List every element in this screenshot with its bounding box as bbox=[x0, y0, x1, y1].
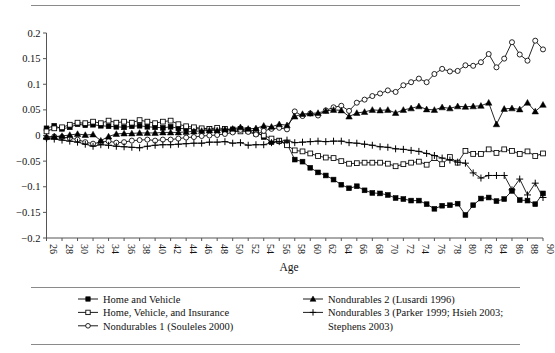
data-point-marker bbox=[485, 172, 492, 179]
data-point-marker bbox=[525, 149, 530, 154]
data-point-marker bbox=[447, 69, 452, 74]
data-point-marker bbox=[346, 139, 353, 146]
data-point-marker bbox=[370, 94, 375, 99]
data-point-marker bbox=[440, 162, 445, 167]
data-point-marker bbox=[354, 184, 359, 189]
data-point-marker bbox=[392, 145, 399, 152]
series-line bbox=[47, 139, 544, 198]
data-point-marker bbox=[424, 80, 429, 85]
data-point-marker bbox=[385, 107, 391, 113]
data-point-marker bbox=[485, 99, 491, 105]
data-point-marker bbox=[145, 119, 150, 124]
data-point-marker bbox=[145, 124, 150, 129]
data-point-marker bbox=[401, 162, 406, 167]
data-point-marker bbox=[75, 120, 80, 125]
data-point-marker bbox=[86, 310, 90, 314]
data-point-marker bbox=[423, 106, 429, 112]
data-point-marker bbox=[517, 52, 522, 57]
data-point-marker bbox=[331, 177, 336, 182]
data-point-marker bbox=[533, 202, 538, 207]
data-point-marker bbox=[252, 141, 259, 148]
x-tick-label: 48 bbox=[219, 244, 230, 254]
data-point-marker bbox=[439, 155, 446, 162]
data-point-marker bbox=[454, 103, 460, 109]
data-point-marker bbox=[183, 140, 190, 147]
y-tick-label: −0.15 bbox=[16, 207, 40, 218]
x-tick-label: 26 bbox=[48, 244, 59, 254]
y-tick-label: 0.1 bbox=[27, 79, 40, 90]
data-series-group bbox=[43, 38, 546, 217]
data-point-marker bbox=[322, 138, 329, 145]
series-line bbox=[47, 124, 544, 215]
x-tick-label: 42 bbox=[172, 244, 183, 254]
data-point-marker bbox=[229, 140, 236, 147]
x-tick-label: 32 bbox=[95, 244, 106, 254]
data-point-marker bbox=[67, 122, 72, 127]
data-point-marker bbox=[291, 139, 298, 146]
data-point-marker bbox=[409, 160, 414, 165]
data-point-marker bbox=[145, 137, 150, 142]
data-point-marker bbox=[494, 151, 499, 156]
data-point-marker bbox=[144, 143, 151, 150]
data-point-marker bbox=[137, 123, 142, 128]
data-point-marker bbox=[184, 135, 189, 140]
legend-label: Stephens 2003) bbox=[328, 321, 394, 333]
data-point-marker bbox=[330, 138, 337, 145]
x-tick-label: 82 bbox=[483, 244, 494, 254]
y-tick-label: −0.05 bbox=[16, 156, 40, 167]
data-point-marker bbox=[83, 121, 88, 126]
data-point-marker bbox=[316, 154, 321, 159]
data-point-marker bbox=[378, 191, 383, 196]
data-point-marker bbox=[167, 141, 174, 148]
data-point-marker bbox=[384, 144, 391, 151]
y-tick-label: 0 bbox=[35, 130, 40, 141]
data-point-marker bbox=[455, 201, 460, 206]
data-point-marker bbox=[159, 141, 166, 148]
data-point-marker bbox=[525, 198, 530, 203]
x-tick-label: 72 bbox=[405, 244, 416, 254]
data-point-marker bbox=[517, 198, 522, 203]
data-point-marker bbox=[540, 47, 545, 52]
data-point-marker bbox=[385, 193, 390, 198]
data-point-marker bbox=[401, 83, 406, 88]
data-point-marker bbox=[479, 152, 484, 157]
data-point-marker bbox=[370, 191, 375, 196]
data-point-marker bbox=[486, 51, 491, 56]
data-point-marker bbox=[137, 118, 142, 123]
legend-label: Nondurables 2 (Lusardi 1996) bbox=[328, 294, 455, 306]
data-point-marker bbox=[517, 152, 522, 157]
data-point-marker bbox=[175, 141, 182, 148]
x-axis-title: Age bbox=[279, 261, 298, 274]
data-point-marker bbox=[463, 213, 468, 218]
data-point-marker bbox=[137, 138, 142, 143]
data-point-marker bbox=[353, 140, 360, 147]
data-point-marker bbox=[424, 202, 429, 207]
data-point-marker bbox=[347, 108, 352, 113]
data-point-marker bbox=[276, 121, 282, 127]
data-point-marker bbox=[315, 138, 322, 145]
data-point-marker bbox=[471, 63, 476, 68]
data-point-marker bbox=[362, 97, 367, 102]
data-point-marker bbox=[471, 152, 476, 157]
x-tick-label: 28 bbox=[64, 244, 75, 254]
x-tick-label: 38 bbox=[141, 244, 152, 254]
x-tick-label: 44 bbox=[188, 244, 199, 254]
legend-entry: Stephens 2003) bbox=[328, 321, 394, 333]
series-5 bbox=[43, 135, 546, 201]
data-point-marker bbox=[392, 110, 398, 116]
data-point-marker bbox=[308, 165, 313, 170]
data-point-marker bbox=[493, 172, 500, 179]
data-point-marker bbox=[215, 132, 220, 137]
data-point-marker bbox=[168, 124, 173, 129]
data-point-marker bbox=[261, 128, 266, 133]
data-point-marker bbox=[308, 151, 313, 156]
data-point-marker bbox=[370, 160, 375, 165]
data-point-marker bbox=[190, 140, 197, 147]
data-point-marker bbox=[385, 88, 390, 93]
x-tick-label: 34 bbox=[110, 244, 121, 254]
x-tick-label: 78 bbox=[452, 244, 463, 254]
data-point-marker bbox=[416, 198, 421, 203]
data-point-marker bbox=[502, 147, 507, 152]
legend-entry: Nondurables 1 (Souleles 2000) bbox=[78, 321, 234, 333]
data-point-marker bbox=[516, 176, 523, 183]
